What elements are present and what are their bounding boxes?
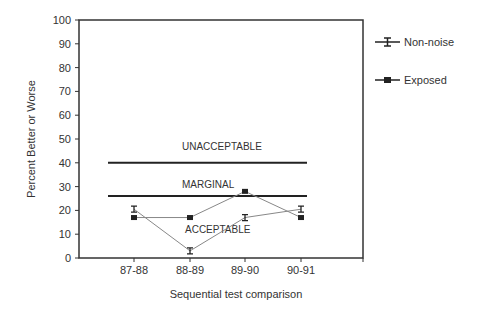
- legend-label: Non-noise: [404, 36, 454, 48]
- legend-label: Exposed: [404, 74, 447, 86]
- plot-area: [79, 20, 363, 258]
- square-marker: [298, 215, 304, 220]
- y-tick-label: 40: [59, 157, 71, 169]
- y-axis-title: Percent Better or Worse: [25, 80, 37, 198]
- y-tick-label: 0: [65, 252, 71, 264]
- x-axis-title: Sequential test comparison: [170, 288, 303, 300]
- y-tick-label: 50: [59, 133, 71, 145]
- legend-square-icon: [384, 77, 391, 83]
- x-tick-label: 87-88: [120, 264, 148, 276]
- square-marker: [187, 215, 193, 220]
- y-tick-label: 100: [53, 14, 71, 26]
- zone-label: UNACCEPTABLE: [182, 141, 262, 152]
- x-tick-label: 90-91: [287, 264, 315, 276]
- square-marker: [131, 215, 137, 220]
- y-tick-label: 70: [59, 85, 71, 97]
- y-tick-label: 80: [59, 62, 71, 74]
- line-chart: 010203040506070809010087-8888-8989-9090-…: [0, 0, 479, 313]
- y-tick-label: 60: [59, 109, 71, 121]
- y-tick-label: 30: [59, 181, 71, 193]
- x-tick-label: 88-89: [176, 264, 204, 276]
- zone-label: MARGINAL: [182, 179, 235, 190]
- square-marker: [242, 189, 248, 194]
- x-tick-label: 89-90: [231, 264, 259, 276]
- y-tick-label: 90: [59, 38, 71, 50]
- y-tick-label: 10: [59, 228, 71, 240]
- y-tick-label: 20: [59, 204, 71, 216]
